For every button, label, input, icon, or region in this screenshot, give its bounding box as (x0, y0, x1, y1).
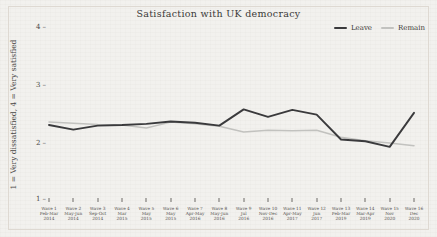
x-axis-tick-mark (146, 198, 147, 202)
x-axis-tick-mark (268, 198, 269, 202)
x-axis-label-line: 2019 (332, 216, 351, 221)
legend-item-leave[interactable]: Leave (334, 24, 372, 32)
chart-legend: LeaveRemain (334, 24, 425, 32)
x-axis-label: Wave 2May-Jun2014 (64, 206, 82, 222)
x-axis-label: Wave 3Sep-Oct2014 (89, 206, 106, 222)
x-axis-tick-mark (170, 198, 171, 202)
x-axis-label: Wave 15Nov2020 (380, 206, 398, 222)
x-axis-label-line: 2015 (114, 216, 130, 221)
x-axis-label: Wave 16Dec2020 (405, 206, 423, 222)
x-axis-label-line: 2015 (138, 216, 154, 221)
series-line-leave (49, 109, 414, 147)
x-axis-tick-mark (292, 198, 293, 202)
x-axis-label-line: 2020 (380, 216, 398, 221)
x-axis-label-line: 2016 (210, 216, 228, 221)
x-axis-tick-mark (316, 198, 317, 202)
x-axis-label-line: 2019 (356, 216, 374, 221)
x-axis-tick-mark (122, 198, 123, 202)
x-axis-tick-mark (341, 198, 342, 202)
x-axis-label: Wave 12Jun2017 (307, 206, 325, 222)
legend-swatch-icon (381, 27, 394, 29)
x-axis-label: Wave 11Apr-May2017 (283, 206, 302, 222)
x-axis-label: Wave 8May-Jun2016 (210, 206, 228, 222)
x-axis-label-line: 2014 (89, 216, 106, 221)
x-axis-label: Wave 7Apr-May2016 (186, 206, 205, 222)
x-axis-tick-mark (97, 198, 98, 202)
x-axis-label: Wave 10Nov-Dec2016 (259, 206, 278, 222)
x-axis-label: Wave 4Mar2015 (114, 206, 130, 222)
x-axis-label-line: 2014 (64, 216, 82, 221)
x-axis-label: Wave 1Feb-Mar2014 (40, 206, 59, 222)
x-axis-label-line: 2015 (163, 216, 179, 221)
x-axis-label-line: 2017 (307, 216, 325, 221)
legend-swatch-icon (334, 27, 347, 29)
x-axis-tick-mark (389, 198, 390, 202)
x-axis-label: Wave 9Jul2016 (236, 206, 252, 222)
x-axis-label: Wave 5May2015 (138, 206, 154, 222)
x-axis-tick-mark (49, 198, 50, 202)
x-axis-tick-mark (73, 198, 74, 202)
x-axis-label-line: 2020 (405, 216, 423, 221)
x-axis-label: Wave 6May2015 (163, 206, 179, 222)
legend-item-remain[interactable]: Remain (381, 24, 425, 32)
x-axis-label-line: 2016 (186, 216, 205, 221)
x-axis-tick-mark (219, 198, 220, 202)
x-axis-label-line: 2017 (283, 216, 302, 221)
legend-label: Remain (398, 24, 425, 32)
x-axis-label-line: 2016 (259, 216, 278, 221)
x-axis-label-line: 2016 (236, 216, 252, 221)
chart-container: Satisfaction with UK democracy 1 = Very … (0, 0, 437, 237)
x-axis-tick-mark (414, 198, 415, 202)
x-axis-tick-mark (195, 198, 196, 202)
x-axis-label: Wave 13Feb-Mar2019 (332, 206, 351, 222)
x-axis-label: Wave 14Mar-Apr2019 (356, 206, 374, 222)
x-axis-tick-mark (243, 198, 244, 202)
legend-label: Leave (351, 24, 372, 32)
x-axis-label-line: 2014 (40, 216, 59, 221)
x-axis-tick-mark (365, 198, 366, 202)
